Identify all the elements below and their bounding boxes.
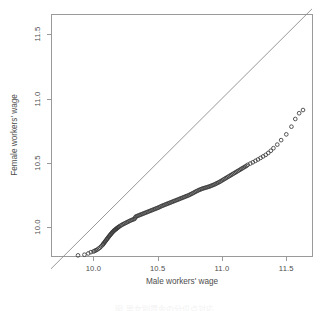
y-axis-label: Female workers' wage [10, 94, 19, 176]
y-tick-label: 11.0 [33, 91, 42, 106]
x-tick-label: 10.5 [150, 264, 166, 273]
y-tick-label: 11.5 [33, 27, 42, 42]
qq-plot-figure: 10.010.511.011.5 10.010.511.011.5 Male w… [0, 0, 329, 311]
x-tick-label: 11.5 [279, 264, 294, 273]
figure-caption: 図 男女別賃金の分位点対応 [0, 303, 329, 311]
axis-ticks [47, 35, 287, 262]
x-axis-label: Male workers' wage [146, 277, 218, 286]
y-tick-label: 10.5 [33, 155, 42, 171]
data-points [76, 108, 305, 257]
identity-reference-line [51, 9, 312, 269]
x-tick-label: 11.0 [214, 264, 229, 273]
plot-frame [52, 15, 313, 257]
x-tick-label: 10.0 [86, 264, 102, 273]
y-tick-label: 10.0 [33, 219, 42, 235]
